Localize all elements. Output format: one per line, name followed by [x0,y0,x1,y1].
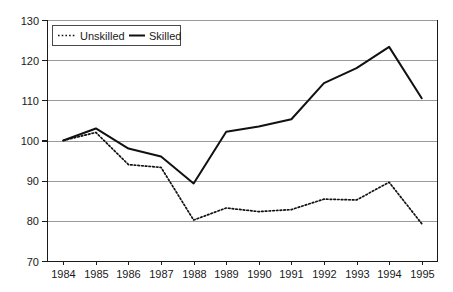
legend-label-skilled: Skilled [149,30,181,42]
legend-label-unskilled: Unskilled [80,30,125,42]
y-tick-label-70: 70 [27,256,39,268]
y-tick-label-100: 100 [21,135,39,147]
x-tick-label-1987: 1987 [149,268,173,280]
x-tick-label-1985: 1985 [84,268,108,280]
x-tick-label-1990: 1990 [247,268,271,280]
y-tick-label-130: 130 [21,15,39,27]
y-tick-label-80: 80 [27,215,39,227]
y-tick-label-120: 120 [21,55,39,67]
x-tick-label-1986: 1986 [116,268,140,280]
chart-canvas: 708090100110120130 198419851986198719881… [0,0,453,292]
x-tick-label-1984: 1984 [51,268,75,280]
x-tick-label-1992: 1992 [312,268,336,280]
x-tick-label-1993: 1993 [345,268,369,280]
x-tick-label-1991: 1991 [279,268,303,280]
x-tick-label-1989: 1989 [214,268,238,280]
x-tick-label-1994: 1994 [377,268,401,280]
x-tick-label-1988: 1988 [182,268,206,280]
line-chart-figure: 708090100110120130 198419851986198719881… [0,0,453,292]
y-tick-label-90: 90 [27,175,39,187]
y-tick-label-110: 110 [21,95,39,107]
chart-legend: Unskilled Skilled [53,26,182,46]
x-tick-label-1995: 1995 [410,268,434,280]
